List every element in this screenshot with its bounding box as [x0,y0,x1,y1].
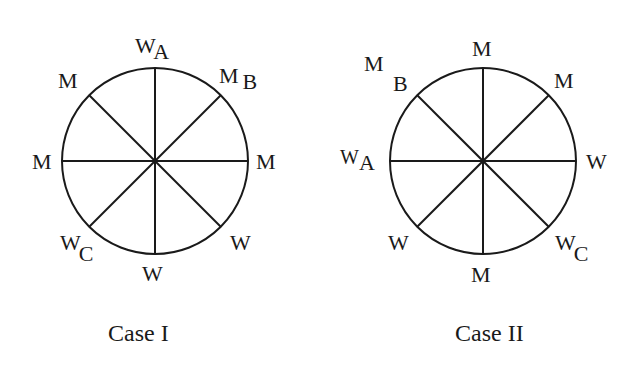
case-1-label-left: M [32,149,52,174]
case-2-caption: Case II [455,320,524,346]
case-2-label-bottom: M [471,262,491,287]
case-1-label-top: WA [135,33,169,64]
case-1-label-bottom: W [142,261,163,286]
case-1-label-right: M [256,149,276,174]
case-2-label-top-right: M [554,68,574,93]
case-2-label-top: M [472,36,492,61]
seating-diagrams: WA MB M W W WC M M M M W WC M W WA MB Ca… [0,0,638,365]
case-1-diagram [62,68,248,254]
case-1-label-bottom-left: WC [60,230,93,266]
case-2-label-top-left: MB [364,51,408,96]
case-2-diagram [390,68,576,254]
case-2-label-bottom-left: W [388,230,409,255]
case-1-caption: Case I [108,320,169,346]
case-1-label-top-right: MB [219,63,257,94]
case-2-label-left: WA [340,146,375,175]
case-2-label-bottom-right: WC [555,230,588,266]
case-1-label-bottom-right: W [230,230,251,255]
case-1-label-top-left: M [58,68,78,93]
case-2-label-right: W [586,149,607,174]
